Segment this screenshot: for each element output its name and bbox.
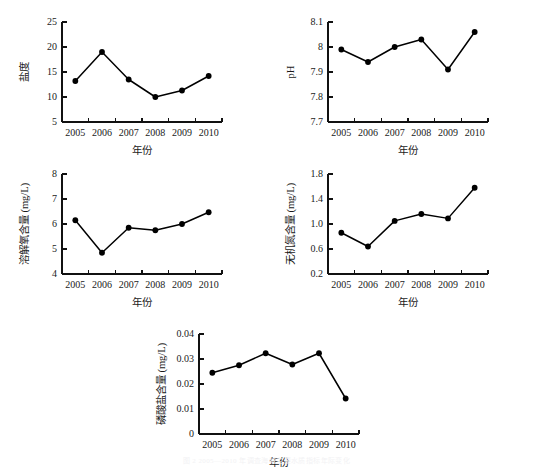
y-tick-label: 0.2 [311, 268, 324, 279]
series-markers-phosphate [209, 350, 348, 401]
y-tick-label: 6 [52, 218, 57, 229]
data-point [209, 370, 215, 376]
data-point [236, 362, 242, 368]
data-point [343, 396, 349, 402]
data-point [472, 185, 478, 191]
data-point [472, 29, 478, 35]
data-point [365, 59, 371, 65]
axes-phosphate: 00.010.020.030.04 [177, 328, 360, 439]
y-tick-label: 8.1 [311, 16, 324, 27]
chart-panel-phosphate: 00.010.020.030.0420052006200720082009201… [143, 320, 369, 471]
y-axis-title-phosphate: 磷酸盐含量 (mg/L) [155, 342, 168, 425]
x-tick-label: 2007 [385, 279, 405, 290]
data-point [99, 49, 105, 55]
axes-salinity: 510152025 [47, 16, 222, 127]
x-tick-label: 2006 [229, 439, 249, 450]
data-point [72, 217, 78, 223]
x-tick-label: 2008 [145, 279, 165, 290]
chart-panel-ph: 7.77.87.988.1200520062007200820092010年份p… [278, 8, 498, 166]
x-tick-label: 2006 [358, 279, 378, 290]
series-line-inorganic-nitrogen [341, 188, 474, 247]
x-axis-title-inorganic-nitrogen: 年份 [398, 296, 419, 308]
y-tick-label: 25 [47, 16, 57, 27]
x-tick-label: 2007 [256, 439, 276, 450]
data-point [418, 37, 424, 43]
data-point [418, 211, 424, 217]
y-tick-label: 5 [52, 243, 57, 254]
x-tick-label: 2007 [119, 279, 139, 290]
x-tick-label: 2007 [119, 127, 139, 138]
data-point [99, 250, 105, 256]
x-tick-label: 2005 [331, 127, 351, 138]
data-point [179, 221, 185, 227]
y-tick-label: 7.8 [311, 91, 324, 102]
y-tick-label: 1.8 [311, 168, 324, 179]
data-point [179, 88, 185, 94]
y-tick-label: 0.02 [177, 378, 195, 389]
series-markers-salinity [72, 49, 211, 100]
x-tick-label: 2006 [92, 127, 112, 138]
y-tick-label: 8 [318, 41, 323, 52]
series-markers-dissolved-oxygen [72, 209, 211, 255]
y-axis-title-dissolved-oxygen: 溶解氧含量 (mg/L) [18, 182, 31, 265]
data-point [263, 350, 269, 356]
data-point [445, 67, 451, 73]
x-tick-label: 2008 [411, 127, 431, 138]
chart-panel-dissolved-oxygen: 45678200520062007200820092010年份溶解氧含量 (mg… [12, 160, 232, 318]
x-tick-label: 2010 [465, 127, 485, 138]
data-point [316, 350, 322, 356]
data-point [126, 225, 132, 231]
y-tick-label: 1.0 [311, 218, 324, 229]
x-tick-labels-phosphate: 200520062007200820092010 [202, 439, 355, 450]
series-line-salinity [75, 52, 208, 97]
x-tick-label: 2010 [199, 127, 219, 138]
series-line-phosphate [212, 353, 345, 398]
x-axis-title-ph: 年份 [398, 144, 419, 156]
y-tick-label: 8 [52, 168, 57, 179]
y-tick-label: 7.9 [311, 66, 324, 77]
data-point [365, 244, 371, 250]
y-tick-label: 20 [47, 41, 57, 52]
y-tick-label: 15 [47, 66, 57, 77]
x-tick-labels-ph: 200520062007200820092010 [331, 127, 484, 138]
x-tick-labels-inorganic-nitrogen: 200520062007200820092010 [331, 279, 484, 290]
x-tick-label: 2006 [92, 279, 112, 290]
y-axis-title-inorganic-nitrogen: 无机氮含量 (mg/L) [284, 182, 297, 265]
axes-ph: 7.77.87.988.1 [311, 16, 489, 127]
x-tick-label: 2005 [202, 439, 222, 450]
y-tick-label: 7.7 [311, 116, 324, 127]
x-tick-label: 2010 [199, 279, 219, 290]
chart-panel-inorganic-nitrogen: 0.20.61.01.41.8200520062007200820092010年… [278, 160, 498, 318]
x-tick-label: 2006 [358, 127, 378, 138]
x-tick-label: 2009 [438, 127, 458, 138]
data-point [445, 215, 451, 221]
x-tick-label: 2009 [309, 439, 329, 450]
x-tick-label: 2005 [65, 279, 85, 290]
cut-off-figure-caption: 图 2 2005—2010 年调查海域主要水质指标年际变化 [0, 457, 533, 466]
data-point [152, 94, 158, 100]
data-point [338, 47, 344, 53]
series-markers-ph [338, 29, 477, 72]
data-point [126, 77, 132, 83]
data-point [72, 78, 78, 84]
x-tick-label: 2010 [465, 279, 485, 290]
x-axis-title-dissolved-oxygen: 年份 [132, 296, 153, 308]
y-tick-label: 4 [52, 268, 57, 279]
y-tick-label: 0 [189, 428, 194, 439]
y-tick-label: 10 [47, 91, 57, 102]
x-tick-label: 2009 [172, 127, 192, 138]
data-point [289, 362, 295, 368]
x-tick-labels-salinity: 200520062007200820092010 [65, 127, 218, 138]
series-line-dissolved-oxygen [75, 212, 208, 253]
axes-inorganic-nitrogen: 0.20.61.01.41.8 [311, 168, 489, 279]
x-tick-label: 2008 [411, 279, 431, 290]
data-point [206, 73, 212, 79]
chart-panel-salinity: 510152025200520062007200820092010年份盐度 [12, 8, 232, 166]
data-point [206, 209, 212, 215]
data-point [152, 227, 158, 233]
x-tick-label: 2007 [385, 127, 405, 138]
x-tick-label: 2005 [331, 279, 351, 290]
y-tick-label: 0.6 [311, 243, 324, 254]
y-tick-label: 7 [52, 193, 57, 204]
